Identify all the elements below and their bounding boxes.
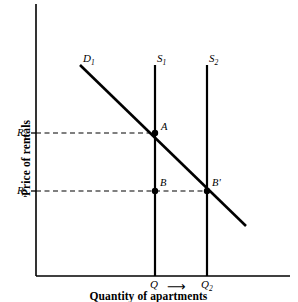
y-tick-label-r2: R2: [17, 184, 27, 199]
point-b-label: B: [160, 177, 166, 188]
quantity-shift-arrow: ⟶: [167, 280, 186, 293]
supply-curve-label-s1: S1: [157, 52, 166, 67]
point-b-marker: [152, 188, 158, 194]
x-axis-title: Quantity of apartments: [36, 290, 261, 302]
point-a-label: A: [161, 121, 167, 132]
chart-plot-area: [0, 0, 298, 302]
point-a-marker: [152, 130, 158, 136]
demand-curve-d1: [80, 65, 246, 226]
supply-demand-figure: Price of rentals Quantity of apartments …: [0, 0, 298, 302]
x-tick-label-q2: Q2: [201, 278, 213, 293]
point-b-prime-label: B': [212, 177, 221, 188]
x-tick-label-q: Q: [150, 278, 158, 293]
demand-curve-label-d1: D1: [83, 52, 95, 67]
supply-curve-label-s2: S2: [209, 52, 218, 67]
y-axis-title: Price of rentals: [20, 93, 32, 223]
point-b-prime-marker: [204, 188, 210, 194]
y-tick-label-r1: R1: [17, 126, 27, 141]
